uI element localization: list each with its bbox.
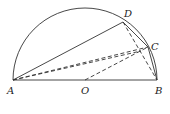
dashed-A-to-DB bbox=[13, 51, 141, 80]
label-C: C bbox=[151, 41, 159, 52]
label-O: O bbox=[81, 85, 89, 96]
segment-AD bbox=[13, 22, 123, 80]
geometry-diagram: A O B C D bbox=[0, 0, 170, 114]
dashed-OC bbox=[85, 47, 148, 80]
label-A: A bbox=[6, 85, 14, 96]
label-B: B bbox=[154, 85, 162, 96]
chord-DC bbox=[123, 22, 148, 47]
semicircle-arc bbox=[13, 8, 157, 80]
label-D: D bbox=[123, 8, 132, 19]
